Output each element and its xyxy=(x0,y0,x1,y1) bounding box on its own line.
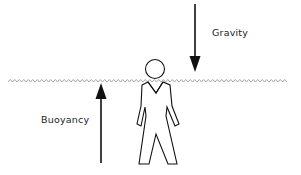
person-figure-icon xyxy=(137,60,179,165)
diagram-canvas xyxy=(0,0,301,175)
gravity-label: Gravity xyxy=(212,27,248,38)
water-surface-line xyxy=(8,80,287,83)
buoyancy-label: Buoyancy xyxy=(41,114,89,125)
buoyancy-arrow-icon xyxy=(96,83,107,163)
gravity-arrow-icon xyxy=(190,4,201,72)
